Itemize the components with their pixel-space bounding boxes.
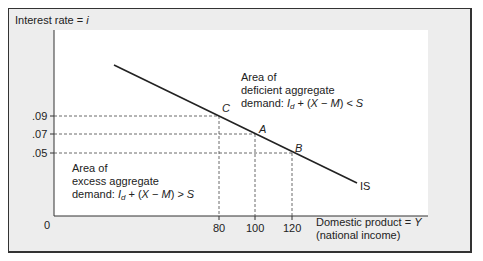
is-curve-label: IS [360, 180, 370, 192]
y-axis-label: Interest rate = i [15, 14, 89, 26]
x-axis-label: Domestic product = Y [316, 216, 422, 228]
svg-text:excess aggregate: excess aggregate [72, 175, 159, 187]
svg-text:demand: Id + (X − M) > S: demand: Id + (X − M) > S [72, 188, 195, 202]
svg-text:demand: Id + (X − M) < S: demand: Id + (X − M) < S [241, 97, 364, 111]
is-curve-diagram: Interest rate = i .09 .07 .05 0 80 100 1… [0, 0, 483, 261]
x-tick-100: 100 [246, 222, 264, 234]
point-b-label: B [295, 142, 302, 154]
x-tick-120: 120 [283, 222, 301, 234]
svg-text:Area of: Area of [241, 71, 277, 83]
origin-label: 0 [44, 219, 50, 231]
svg-text:deficient aggregate: deficient aggregate [241, 84, 335, 96]
x-axis-sublabel: (national income) [316, 229, 400, 241]
svg-text:Area of: Area of [72, 162, 108, 174]
y-tick-09: .09 [32, 110, 47, 122]
y-tick-07: .07 [32, 128, 47, 140]
x-tick-80: 80 [213, 222, 225, 234]
point-c-label: C [222, 102, 230, 114]
y-tick-05: .05 [32, 147, 47, 159]
point-a-label: A [258, 123, 266, 135]
